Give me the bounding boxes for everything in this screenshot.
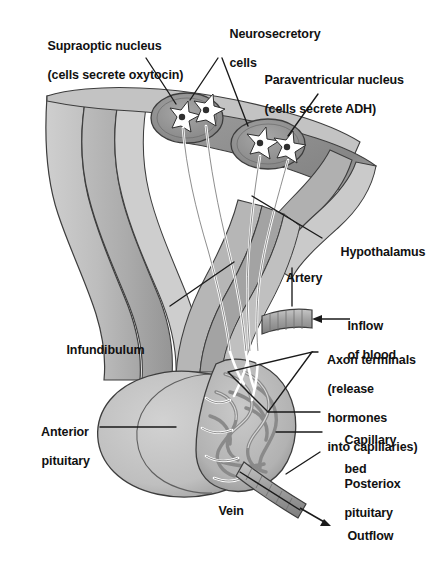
label-infundibulum-line1: Infundibulum xyxy=(67,343,145,357)
label-anterior-pituitary: Anterior pituitary xyxy=(28,410,90,483)
label-paraventricular-line2: (cells secrete ADH) xyxy=(265,102,377,116)
label-infundibulum: Infundibulum xyxy=(53,328,144,372)
label-paraventricular-nucleus: Paraventricular nucleus (cells secrete A… xyxy=(251,58,404,131)
label-anterior-pituitary-line1: Anterior xyxy=(41,425,89,439)
label-artery-line1: Artery xyxy=(286,271,322,285)
arrow-outflow xyxy=(300,508,331,526)
label-posterior-pituitary-line1: Posteriox xyxy=(345,477,401,491)
label-supraoptic-line1: Supraoptic nucleus xyxy=(48,39,162,53)
label-hypothalamus-line1: Hypothalamus xyxy=(341,245,426,259)
label-inflow-line1: Inflow xyxy=(348,319,384,333)
artery-vessel xyxy=(262,309,312,334)
label-outflow-line1: Outflow xyxy=(348,529,394,543)
label-outflow: Outflow xyxy=(334,514,393,558)
label-axon-terminals-line1: Axon terminals xyxy=(327,353,416,367)
label-vein: Vein xyxy=(205,489,244,533)
leader-neurosecretory-left xyxy=(190,58,218,100)
label-anterior-pituitary-line2: pituitary xyxy=(42,454,90,468)
diagram-canvas: Supraoptic nucleus (cells secrete oxytoc… xyxy=(0,0,433,564)
label-hypothalamus: Hypothalamus xyxy=(327,230,425,274)
label-paraventricular-line1: Paraventricular nucleus xyxy=(265,73,404,87)
label-supraoptic-nucleus: Supraoptic nucleus (cells secrete oxytoc… xyxy=(34,24,183,97)
label-vein-line1: Vein xyxy=(219,504,244,518)
label-axon-terminals-line2: (release xyxy=(328,382,374,396)
label-neurosecretory-line1: Neurosecretory xyxy=(230,27,321,41)
label-capillary-bed-line1: Capillary xyxy=(345,433,397,447)
label-artery: Artery xyxy=(273,256,322,300)
label-supraoptic-line2: (cells secrete oxytocin) xyxy=(48,68,184,82)
